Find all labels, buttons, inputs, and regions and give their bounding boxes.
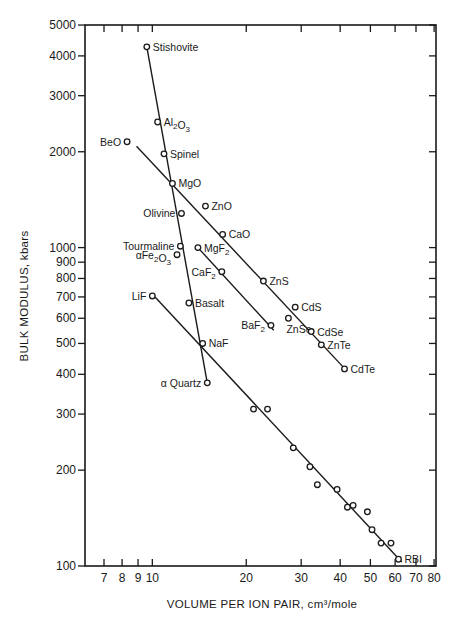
point-marker-icon xyxy=(200,341,206,347)
data-point: CdS xyxy=(292,301,321,313)
data-point: CdTe xyxy=(342,363,375,375)
x-axis-ticks: 7891020304050607080 xyxy=(101,25,441,585)
point-marker-icon xyxy=(307,464,313,470)
data-point xyxy=(350,503,356,509)
y-tick-label: 900 xyxy=(56,255,76,269)
point-marker-icon xyxy=(204,380,210,386)
point-marker-icon xyxy=(170,181,176,187)
data-point xyxy=(307,464,313,470)
point-marker-icon xyxy=(251,406,257,412)
point-marker-icon xyxy=(144,44,150,50)
point-label: CdS xyxy=(301,301,321,313)
point-marker-icon xyxy=(345,504,351,510)
data-point xyxy=(251,406,257,412)
data-point xyxy=(378,540,384,546)
data-point: BeO xyxy=(100,136,130,148)
point-marker-icon xyxy=(334,487,340,493)
point-label: α Quartz xyxy=(161,377,202,389)
point-label: CdTe xyxy=(351,363,376,375)
point-marker-icon xyxy=(350,503,356,509)
data-points: StishoviteAl2O3BeOSpinelMgOZnOOlivineCaO… xyxy=(100,41,422,565)
point-label: NaF xyxy=(209,337,229,349)
point-label: ZnS xyxy=(269,275,288,287)
data-point: CaF2 xyxy=(192,266,225,281)
y-tick-label: 400 xyxy=(56,367,76,381)
point-marker-icon xyxy=(365,509,371,515)
point-marker-icon xyxy=(124,139,130,145)
y-tick-label: 4000 xyxy=(49,49,76,63)
data-point: CaO xyxy=(220,228,250,240)
x-tick-label: 60 xyxy=(388,571,402,585)
point-marker-icon xyxy=(286,315,292,321)
point-label: ZnSe xyxy=(286,323,311,335)
point-marker-icon xyxy=(308,329,314,335)
x-tick-label: 7 xyxy=(101,571,108,585)
point-marker-icon xyxy=(155,119,161,125)
y-tick-label: 1000 xyxy=(49,241,76,255)
data-point xyxy=(265,406,271,412)
y-tick-label: 300 xyxy=(56,407,76,421)
x-tick-label: 20 xyxy=(240,571,254,585)
data-point xyxy=(369,527,375,533)
y-tick-label: 700 xyxy=(56,290,76,304)
data-point: LiF xyxy=(132,290,155,302)
point-marker-icon xyxy=(174,252,180,258)
data-point: BaF2 xyxy=(241,319,274,334)
y-tick-label: 5000 xyxy=(49,18,76,32)
point-marker-icon xyxy=(268,323,274,329)
data-point: ZnTe xyxy=(319,339,351,351)
point-label: LiF xyxy=(132,290,147,302)
x-tick-label: 9 xyxy=(135,571,142,585)
y-axis-title: BULK MODULUS, kbars xyxy=(18,231,30,362)
point-marker-icon xyxy=(186,300,192,306)
data-point: RBI xyxy=(396,553,422,565)
point-marker-icon xyxy=(195,245,201,251)
data-point: NaF xyxy=(200,337,229,349)
point-label: Spinel xyxy=(170,148,199,160)
point-label: Olivine xyxy=(143,207,175,219)
point-label: Al2O3 xyxy=(164,116,191,134)
point-marker-icon xyxy=(315,482,321,488)
point-marker-icon xyxy=(290,445,296,451)
x-tick-label: 30 xyxy=(295,571,309,585)
data-point xyxy=(334,487,340,493)
data-point xyxy=(365,509,371,515)
point-marker-icon xyxy=(378,540,384,546)
point-label: MgF2 xyxy=(204,242,230,257)
point-marker-icon xyxy=(342,366,348,372)
point-label: ZnTe xyxy=(327,339,351,351)
x-tick-label: 40 xyxy=(333,571,347,585)
point-label: BeO xyxy=(100,136,121,148)
data-point: ZnO xyxy=(203,200,232,212)
point-marker-icon xyxy=(292,304,298,310)
point-marker-icon xyxy=(178,243,184,249)
data-point xyxy=(388,540,394,546)
point-label: CaF2 xyxy=(192,266,217,281)
data-point: ZnSe xyxy=(286,315,312,335)
point-marker-icon xyxy=(220,232,226,238)
point-label: Basalt xyxy=(195,297,224,309)
x-tick-label: 50 xyxy=(364,571,378,585)
data-point xyxy=(315,482,321,488)
point-marker-icon xyxy=(261,278,267,284)
bulk-modulus-chart: 7891020304050607080 10020030040050060070… xyxy=(0,0,459,627)
point-label: ZnO xyxy=(211,200,231,212)
data-point xyxy=(345,504,351,510)
y-tick-label: 800 xyxy=(56,271,76,285)
point-label: BaF2 xyxy=(241,319,265,334)
trend-line xyxy=(198,248,274,331)
y-tick-label: 3000 xyxy=(49,89,76,103)
point-marker-icon xyxy=(369,527,375,533)
point-label: αFe2O3 xyxy=(136,249,172,267)
point-label: RBI xyxy=(404,553,422,565)
point-marker-icon xyxy=(161,151,167,157)
data-point xyxy=(290,445,296,451)
point-marker-icon xyxy=(265,406,271,412)
y-tick-label: 600 xyxy=(56,311,76,325)
point-label: CdSe xyxy=(317,326,343,338)
data-point: ZnS xyxy=(261,275,289,287)
y-tick-label: 200 xyxy=(56,463,76,477)
x-tick-label: 70 xyxy=(409,571,423,585)
data-point: α Quartz xyxy=(161,377,210,389)
x-axis-title: VOLUME PER ION PAIR, cm³/mole xyxy=(167,598,358,610)
